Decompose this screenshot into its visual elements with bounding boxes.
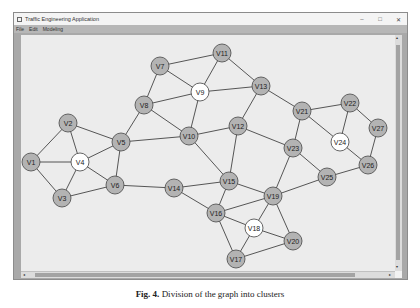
svg-text:V25: V25 <box>321 174 334 181</box>
svg-text:V13: V13 <box>255 83 268 90</box>
svg-text:V5: V5 <box>117 139 126 146</box>
svg-text:V1: V1 <box>27 159 36 166</box>
svg-text:V24: V24 <box>334 139 347 146</box>
node-v3[interactable]: V3 <box>53 189 71 207</box>
node-v16[interactable]: V16 <box>207 204 225 222</box>
node-v9[interactable]: V9 <box>191 83 209 101</box>
svg-text:V4: V4 <box>76 159 85 166</box>
caption-text: Division of the graph into clusters <box>162 289 285 299</box>
svg-text:V11: V11 <box>216 50 228 57</box>
svg-text:V10: V10 <box>183 133 196 140</box>
node-v5[interactable]: V5 <box>112 133 130 151</box>
svg-text:V8: V8 <box>140 102 149 109</box>
node-v17[interactable]: V17 <box>227 250 245 268</box>
svg-text:V12: V12 <box>232 123 245 130</box>
svg-text:V18: V18 <box>248 225 261 232</box>
node-v7[interactable]: V7 <box>151 57 169 75</box>
node-v21[interactable]: V21 <box>293 102 311 120</box>
svg-text:V6: V6 <box>111 182 120 189</box>
node-v20[interactable]: V20 <box>284 232 302 250</box>
node-v10[interactable]: V10 <box>180 127 198 145</box>
caption-label: Fig. 4. <box>136 289 160 299</box>
node-v18[interactable]: V18 <box>245 219 263 237</box>
node-v15[interactable]: V15 <box>220 172 238 190</box>
svg-text:V21: V21 <box>296 108 309 115</box>
svg-text:V26: V26 <box>362 162 375 169</box>
svg-text:V7: V7 <box>156 63 165 70</box>
svg-text:V16: V16 <box>210 210 223 217</box>
node-v24[interactable]: V24 <box>331 133 349 151</box>
node-v6[interactable]: V6 <box>106 176 124 194</box>
edge-V7-V11 <box>160 53 222 66</box>
svg-text:V23: V23 <box>287 145 300 152</box>
svg-text:V17: V17 <box>230 256 243 263</box>
svg-text:V15: V15 <box>223 178 236 185</box>
svg-text:V22: V22 <box>344 100 357 107</box>
svg-text:V19: V19 <box>267 193 280 200</box>
node-v13[interactable]: V13 <box>252 77 270 95</box>
node-v22[interactable]: V22 <box>341 94 359 112</box>
node-v12[interactable]: V12 <box>229 117 247 135</box>
node-v2[interactable]: V2 <box>59 114 77 132</box>
node-v11[interactable]: V11 <box>213 44 231 62</box>
node-v1[interactable]: V1 <box>22 153 40 171</box>
figure-caption: Fig. 4. Division of the graph into clust… <box>0 289 420 299</box>
svg-text:V2: V2 <box>64 120 73 127</box>
node-v19[interactable]: V19 <box>264 187 282 205</box>
node-v14[interactable]: V14 <box>165 179 183 197</box>
node-v23[interactable]: V23 <box>284 139 302 157</box>
svg-text:V20: V20 <box>287 238 300 245</box>
svg-text:V14: V14 <box>168 185 181 192</box>
node-v26[interactable]: V26 <box>359 156 377 174</box>
node-v4[interactable]: V4 <box>71 153 89 171</box>
node-v25[interactable]: V25 <box>318 168 336 186</box>
svg-text:V9: V9 <box>196 89 205 96</box>
node-v27[interactable]: V27 <box>369 119 387 137</box>
edge-V5-V10 <box>121 136 189 142</box>
graph-diagram: V1V2V3V4V5V6V7V8V9V10V11V12V13V14V15V16V… <box>0 0 420 308</box>
node-v8[interactable]: V8 <box>135 96 153 114</box>
svg-text:V3: V3 <box>58 195 67 202</box>
svg-text:V27: V27 <box>372 125 385 132</box>
